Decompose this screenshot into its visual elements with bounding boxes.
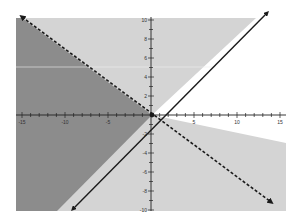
inequality-graph: -15 -10 -5 5 10 15 -10 -8 -6 -4 -2 2 4 6… xyxy=(0,0,302,222)
bottom-margin xyxy=(0,211,302,222)
svg-text:10: 10 xyxy=(141,17,147,23)
right-margin xyxy=(286,0,302,222)
svg-text:10: 10 xyxy=(234,119,240,125)
svg-text:-8: -8 xyxy=(143,188,148,194)
svg-text:-15: -15 xyxy=(18,119,25,125)
svg-text:-10: -10 xyxy=(140,207,147,213)
intersection-point xyxy=(150,113,155,118)
svg-text:-5: -5 xyxy=(106,119,111,125)
svg-text:4: 4 xyxy=(144,74,147,80)
svg-text:6: 6 xyxy=(144,55,147,61)
svg-text:15: 15 xyxy=(277,119,283,125)
svg-text:2: 2 xyxy=(144,93,147,99)
svg-text:8: 8 xyxy=(144,36,147,42)
svg-text:-10: -10 xyxy=(61,119,68,125)
svg-text:-6: -6 xyxy=(143,169,148,175)
svg-text:-4: -4 xyxy=(143,150,148,156)
svg-text:5: 5 xyxy=(193,119,196,125)
